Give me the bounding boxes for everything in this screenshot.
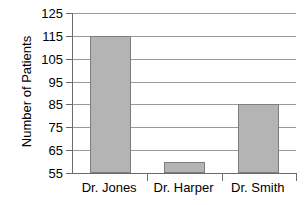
y-axis-tick-label: 95 [49, 74, 63, 89]
bar-chart: Number of Patients 5565758595105115125 D… [0, 0, 305, 205]
y-axis-tick-label: 85 [49, 97, 63, 112]
y-axis-tick [66, 13, 73, 14]
x-axis-tick [296, 173, 297, 181]
y-axis-tick [66, 104, 73, 105]
y-axis-tick [66, 82, 73, 83]
y-axis-tick [66, 173, 73, 174]
y-axis-tick-label: 75 [49, 120, 63, 135]
y-axis-tick [66, 150, 73, 151]
y-axis-tick-label: 65 [49, 143, 63, 158]
x-axis-category-label: Dr. Harper [154, 180, 214, 195]
y-axis-tick [66, 59, 73, 60]
y-axis-tick [66, 36, 73, 37]
gridline [73, 173, 296, 174]
x-axis-category-labels: Dr. JonesDr. HarperDr. Smith [72, 180, 295, 200]
bar [90, 36, 131, 173]
x-axis-category-label: Dr. Smith [231, 180, 284, 195]
bar [164, 162, 205, 173]
x-axis-category-label: Dr. Jones [82, 180, 137, 195]
bar-series [73, 13, 296, 173]
y-axis-tick-label: 105 [41, 51, 63, 66]
y-axis-title: Number of Patients [19, 12, 34, 172]
plot-area: 5565758595105115125 [72, 13, 295, 173]
y-axis-tick-label: 115 [42, 28, 63, 43]
y-axis-tick-label: 55 [49, 166, 63, 181]
y-axis-tick-label: 125 [41, 6, 63, 21]
bar [238, 104, 279, 173]
y-axis-tick [66, 127, 73, 128]
